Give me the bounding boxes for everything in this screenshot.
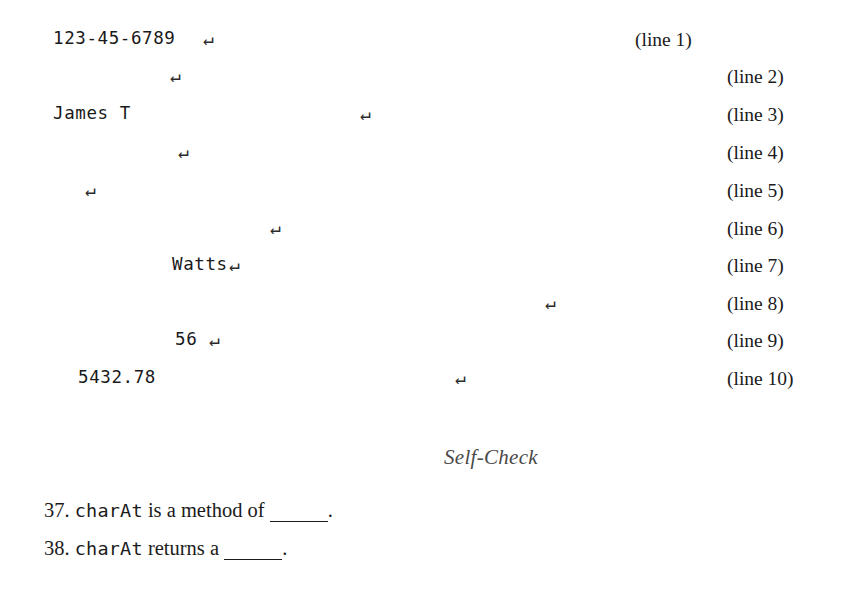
code-listing-row: ↵(line 4): [0, 143, 849, 180]
question-code-term: charAt: [75, 500, 143, 521]
question-terminator: .: [328, 499, 333, 521]
line-number-label: (line 4): [727, 143, 784, 163]
question-number: 37.: [44, 499, 70, 521]
carriage-return-icon: ↵: [170, 67, 181, 85]
line-number-label: (line 8): [727, 294, 784, 314]
line-number-label: (line 5): [727, 181, 784, 201]
carriage-return-icon: ↵: [545, 294, 556, 312]
carriage-return-icon: ↵: [85, 181, 96, 199]
line-number-label: (line 1): [635, 30, 692, 50]
carriage-return-icon: ↵: [270, 219, 281, 237]
carriage-return-icon: ↵: [178, 143, 189, 161]
code-line-text: 5432.78: [78, 369, 156, 387]
self-check-question: 38. charAt returns a .: [44, 538, 287, 560]
carriage-return-icon: ↵: [203, 30, 214, 48]
line-number-label: (line 9): [727, 331, 784, 351]
line-number-label: (line 10): [727, 369, 794, 389]
question-text: returns a: [143, 537, 224, 559]
code-listing-row: ↵(line 5): [0, 181, 849, 218]
line-number-label: (line 2): [727, 67, 784, 87]
code-listing-row: 123-45-6789↵(line 1): [0, 30, 849, 67]
code-listing-row: James T↵(line 3): [0, 105, 849, 142]
code-listing-row: 56↵(line 9): [0, 331, 849, 368]
carriage-return-icon: ↵: [455, 369, 466, 387]
line-number-label: (line 3): [727, 105, 784, 125]
document-page: 123-45-6789↵(line 1)↵(line 2)James T↵(li…: [0, 0, 849, 599]
code-line-text: Watts: [172, 256, 228, 274]
question-text: is a method of: [143, 499, 270, 521]
carriage-return-icon: ↵: [229, 256, 240, 274]
answer-blank: [224, 538, 282, 560]
line-number-label: (line 7): [727, 256, 784, 276]
carriage-return-icon: ↵: [360, 105, 371, 123]
question-code-term: charAt: [75, 538, 143, 559]
carriage-return-icon: ↵: [209, 331, 220, 349]
answer-blank: [270, 500, 328, 522]
question-number: 38.: [44, 537, 70, 559]
self-check-question: 37. charAt is a method of .: [44, 500, 333, 522]
self-check-heading: Self-Check: [444, 447, 538, 468]
code-listing-row: ↵(line 2): [0, 67, 849, 104]
code-listing-row: ↵(line 6): [0, 219, 849, 256]
question-terminator: .: [282, 537, 287, 559]
code-listing-row: 5432.78↵(line 10): [0, 369, 849, 406]
code-line-text: James T: [53, 105, 131, 123]
code-listing-row: ↵(line 8): [0, 294, 849, 331]
line-number-label: (line 6): [727, 219, 784, 239]
code-line-text: 56: [175, 331, 197, 349]
code-listing-row: Watts↵(line 7): [0, 256, 849, 293]
code-line-text: 123-45-6789: [53, 30, 176, 48]
